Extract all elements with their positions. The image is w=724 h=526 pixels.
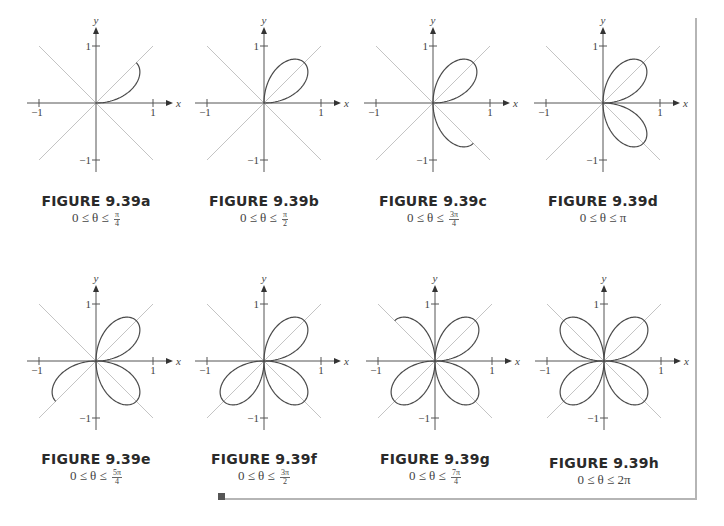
- range-prefix: 0 ≤ θ ≤: [409, 468, 449, 483]
- y-tick-label-neg: −1: [79, 154, 91, 166]
- y-tick-label-pos: 1: [254, 40, 260, 52]
- fraction-denominator: 4: [451, 478, 461, 486]
- y-tick-label-neg: −1: [418, 412, 430, 424]
- figure-caption: FIGURE 9.39b 0 ≤ θ ≤ π2: [174, 193, 354, 228]
- y-axis-label: y: [93, 14, 99, 26]
- x-tick-label-neg: −1: [199, 106, 211, 118]
- range-plain: π: [620, 210, 627, 225]
- x-arrow-icon: [166, 358, 173, 364]
- y-arrow-icon: [93, 27, 99, 34]
- polar-plot: 1−11−1xy: [343, 13, 523, 193]
- x-arrow-icon: [166, 100, 173, 106]
- fraction-denominator: 4: [112, 478, 122, 486]
- range-prefix: 0 ≤ θ ≤: [407, 210, 447, 225]
- y-tick-label-neg: −1: [587, 412, 599, 424]
- fraction-denominator: 2: [282, 220, 288, 228]
- y-arrow-icon: [93, 285, 99, 292]
- end-of-section-marker: [218, 493, 225, 500]
- range-prefix: 0 ≤ θ ≤: [580, 210, 620, 225]
- y-tick-label-pos: 1: [425, 298, 431, 310]
- y-axis-label: y: [432, 272, 438, 284]
- page-rule-bottom: [222, 498, 697, 500]
- theta-range: 0 ≤ θ ≤ 7π4: [345, 468, 525, 486]
- x-tick-label-pos: 1: [150, 106, 156, 118]
- x-axis-label: x: [682, 97, 688, 109]
- theta-range: 0 ≤ θ ≤ π: [513, 210, 693, 226]
- y-arrow-icon: [261, 27, 267, 34]
- figure-title: FIGURE 9.39c: [343, 193, 523, 209]
- y-arrow-icon: [261, 285, 267, 292]
- figure-title: FIGURE 9.39e: [6, 451, 186, 467]
- range-prefix: 0 ≤ θ ≤: [72, 210, 112, 225]
- y-axis-label: y: [600, 14, 606, 26]
- x-tick-label-neg: −1: [538, 106, 550, 118]
- range-prefix: 0 ≤ θ ≤: [240, 210, 280, 225]
- x-tick-label-pos: 1: [318, 106, 324, 118]
- y-arrow-icon: [432, 285, 438, 292]
- y-tick-label-neg: −1: [247, 412, 259, 424]
- x-tick-label-pos: 1: [150, 364, 156, 376]
- figure-caption: FIGURE 9.39f 0 ≤ θ ≤ 3π2: [174, 451, 354, 486]
- range-prefix: 0 ≤ θ ≤: [70, 468, 110, 483]
- x-arrow-icon: [673, 100, 680, 106]
- x-tick-label-neg: −1: [31, 106, 43, 118]
- y-axis-label: y: [261, 14, 267, 26]
- range-prefix: 0 ≤ θ ≤: [238, 468, 278, 483]
- range-fraction: 3π2: [280, 469, 290, 486]
- y-axis-label: y: [430, 14, 436, 26]
- range-fraction: 7π4: [451, 469, 461, 486]
- theta-range: 0 ≤ θ ≤ 5π4: [6, 468, 186, 486]
- page-rule-right: [695, 18, 697, 500]
- y-arrow-icon: [430, 27, 436, 34]
- y-tick-label-neg: −1: [586, 154, 598, 166]
- figure-caption: FIGURE 9.39a 0 ≤ θ ≤ π4: [6, 193, 186, 228]
- figure-caption: FIGURE 9.39d 0 ≤ θ ≤ π: [513, 193, 693, 226]
- theta-range: 0 ≤ θ ≤ 2π: [514, 472, 694, 488]
- x-tick-label-pos: 1: [657, 106, 663, 118]
- theta-range: 0 ≤ θ ≤ π2: [174, 210, 354, 228]
- x-arrow-icon: [503, 100, 510, 106]
- y-tick-label-neg: −1: [247, 154, 259, 166]
- x-arrow-icon: [505, 358, 512, 364]
- x-tick-label-neg: −1: [370, 364, 382, 376]
- y-arrow-icon: [600, 27, 606, 34]
- x-tick-label-neg: −1: [368, 106, 380, 118]
- y-tick-label-pos: 1: [86, 298, 92, 310]
- x-tick-label-pos: 1: [489, 364, 495, 376]
- y-axis-label: y: [601, 272, 607, 284]
- x-tick-label-neg: −1: [199, 364, 211, 376]
- range-prefix: 0 ≤ θ ≤: [577, 472, 617, 487]
- polar-plot: 1−11−1xy: [174, 271, 354, 451]
- fraction-denominator: 4: [114, 220, 120, 228]
- range-plain: 2π: [617, 472, 630, 487]
- y-tick-label-pos: 1: [593, 40, 599, 52]
- y-tick-label-neg: −1: [79, 412, 91, 424]
- y-tick-label-neg: −1: [416, 154, 428, 166]
- x-tick-label-pos: 1: [487, 106, 493, 118]
- fraction-denominator: 4: [449, 220, 459, 228]
- y-axis-label: y: [261, 272, 267, 284]
- x-arrow-icon: [674, 358, 681, 364]
- range-fraction: 3π4: [449, 211, 459, 228]
- figure-caption: FIGURE 9.39h 0 ≤ θ ≤ 2π: [514, 455, 694, 488]
- y-tick-label-pos: 1: [86, 40, 92, 52]
- polar-plot: 1−11−1xy: [174, 13, 354, 193]
- fraction-denominator: 2: [280, 478, 290, 486]
- x-tick-label-neg: −1: [31, 364, 43, 376]
- y-tick-label-pos: 1: [254, 298, 260, 310]
- x-axis-label: x: [683, 355, 689, 367]
- figure-caption: FIGURE 9.39e 0 ≤ θ ≤ 5π4: [6, 451, 186, 486]
- range-fraction: π2: [282, 211, 288, 228]
- y-tick-label-pos: 1: [423, 40, 429, 52]
- figure-caption: FIGURE 9.39g 0 ≤ θ ≤ 7π4: [345, 451, 525, 486]
- theta-range: 0 ≤ θ ≤ 3π2: [174, 468, 354, 486]
- x-tick-label-pos: 1: [658, 364, 664, 376]
- polar-plot: 1−11−1xy: [514, 271, 694, 451]
- y-arrow-icon: [601, 285, 607, 292]
- figure-title: FIGURE 9.39a: [6, 193, 186, 209]
- figure-caption: FIGURE 9.39c 0 ≤ θ ≤ 3π4: [343, 193, 523, 228]
- figure-title: FIGURE 9.39g: [345, 451, 525, 467]
- x-arrow-icon: [334, 100, 341, 106]
- polar-plot: 1−11−1xy: [345, 271, 525, 451]
- polar-plot: 1−11−1xy: [513, 13, 693, 193]
